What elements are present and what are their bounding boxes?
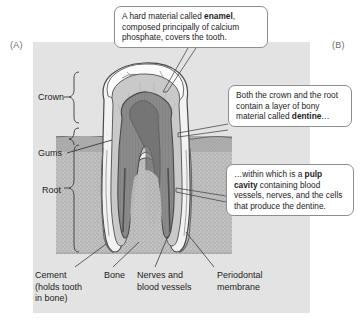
label-root: Root — [42, 185, 61, 197]
panel-label-b: (B) — [332, 40, 345, 50]
label-gums: Gums — [38, 148, 62, 160]
tooth-anatomy-figure: (A) (B) — [0, 0, 362, 327]
label-bone: Bone — [104, 270, 125, 282]
label-nerves-and-blood-vessels: Nerves and blood vessels — [137, 270, 192, 293]
callout-enamel-term: enamel — [204, 11, 233, 21]
label-crown: Crown — [38, 92, 64, 104]
label-periodontal-membrane: Periodontal membrane — [217, 270, 263, 293]
callout-enamel: A hard material called enamel, composed … — [114, 6, 268, 48]
callout-dentine: Both the crown and the root contain a la… — [228, 85, 352, 127]
panel-label-a: (A) — [10, 40, 23, 50]
label-cement: Cement (holds tooth in bone) — [35, 270, 82, 305]
callout-pulp-text-before: …within which is a — [234, 169, 305, 179]
callout-dentine-term: dentine — [292, 111, 322, 121]
callout-dentine-text-after: … — [321, 111, 329, 121]
callout-pulp-cavity: …within which is a pulp cavity containin… — [226, 164, 354, 216]
callout-enamel-text-before: A hard material called — [122, 11, 204, 21]
